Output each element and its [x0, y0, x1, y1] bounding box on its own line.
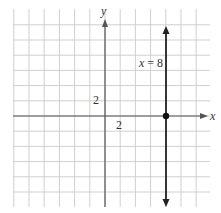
line-top-arrow-icon: [163, 26, 170, 34]
grid-lines: [13, 9, 210, 207]
x-axis-arrow-icon: [200, 113, 208, 119]
line-label: x = 8: [138, 56, 163, 70]
coordinate-plane-figure: x y 2 2 x = 8: [0, 0, 221, 213]
x-axis-label: x: [209, 109, 216, 123]
y-axis-arrow-icon: [102, 19, 108, 27]
coordinate-plane: x y 2 2 x = 8: [0, 0, 221, 213]
line-bottom-arrow-icon: [163, 199, 170, 207]
y-axis-label: y: [100, 4, 107, 18]
x-tick-label: 2: [116, 118, 122, 132]
y-tick-label: 2: [93, 93, 99, 107]
line-label-rest: = 8: [144, 56, 163, 70]
x-intercept-point: [163, 113, 169, 119]
